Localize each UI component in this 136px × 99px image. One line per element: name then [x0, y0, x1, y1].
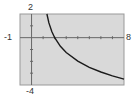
plot-area [0, 0, 136, 99]
